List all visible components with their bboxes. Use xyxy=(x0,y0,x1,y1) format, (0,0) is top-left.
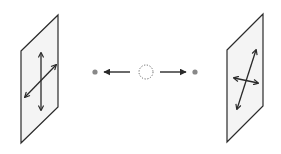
source-dotted-circle-icon xyxy=(139,65,153,79)
central-source-group xyxy=(92,65,197,79)
left-particle-dot-icon xyxy=(92,69,97,74)
left-polarizer-panel xyxy=(21,15,58,143)
diagram-canvas xyxy=(0,0,281,154)
right-particle-dot-icon xyxy=(192,69,197,74)
right-polarizer-panel xyxy=(227,14,263,142)
